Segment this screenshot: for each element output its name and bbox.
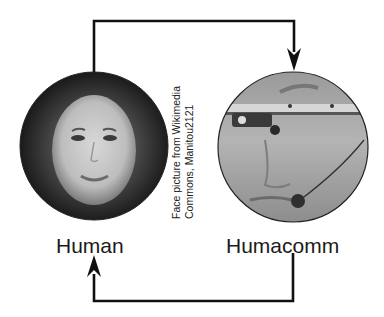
humacomm-node-label: Humacomm	[226, 235, 339, 256]
caption-line-1: Face picture from Wikimedia	[170, 86, 183, 219]
image-credit-caption: Face picture from Wikimedia Commons, Man…	[170, 86, 195, 219]
edge-humacomm-to-human	[87, 253, 293, 301]
edge-human-to-humacomm	[94, 21, 301, 72]
human-node-label: Human	[56, 235, 124, 256]
caption-line-2: Commons, Manitou2121	[183, 86, 196, 219]
arrowhead-up-icon	[87, 255, 101, 277]
